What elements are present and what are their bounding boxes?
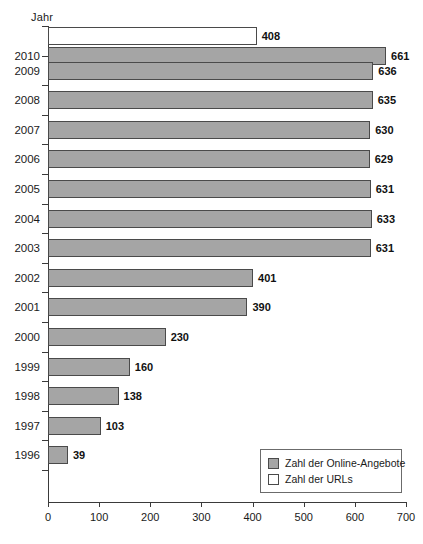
y-tick-1998	[42, 381, 49, 382]
bar-value-online-2007: 630	[375, 124, 393, 136]
bar-online-1998	[48, 387, 119, 405]
bar-value-online-2009: 636	[378, 65, 396, 77]
y-tick-2006	[42, 144, 49, 145]
x-tick-500	[304, 502, 305, 507]
bar-value-online-1997: 103	[106, 420, 124, 432]
year-label-1999: 1999	[14, 361, 40, 373]
year-label-2001: 2001	[14, 301, 40, 313]
y-tick-2003	[42, 233, 49, 234]
year-label-2003: 2003	[14, 242, 40, 254]
bar-online-2003	[48, 239, 371, 257]
bar-value-online-2001: 390	[252, 301, 270, 313]
bar-value-urls-2010: 408	[262, 30, 280, 42]
y-tick-1997	[42, 411, 49, 412]
bar-value-online-2002: 401	[258, 272, 276, 284]
year-label-1998: 1998	[14, 390, 40, 402]
x-tick-400	[253, 502, 254, 507]
year-label-2009: 2009	[14, 65, 40, 77]
x-tick-label-500: 500	[295, 511, 313, 523]
bar-online-2005	[48, 180, 371, 198]
legend-label-urls: Zahl der URLs	[285, 473, 353, 485]
bar-online-1996	[48, 446, 68, 464]
legend-item-urls: Zahl der URLs	[268, 472, 394, 486]
bar-online-1999	[48, 358, 130, 376]
x-tick-label-0: 0	[45, 511, 51, 523]
legend-label-online: Zahl der Online-Angebote	[285, 457, 405, 469]
year-label-2006: 2006	[14, 153, 40, 165]
bar-value-online-1996: 39	[73, 449, 85, 461]
x-tick-700	[406, 502, 407, 507]
bar-value-online-2003: 631	[376, 242, 394, 254]
bar-value-online-2006: 629	[375, 153, 393, 165]
year-label-2007: 2007	[14, 124, 40, 136]
y-tick-1996	[42, 440, 49, 441]
y-tick-2008	[42, 85, 49, 86]
bar-value-online-2000: 230	[171, 331, 189, 343]
x-tick-label-600: 600	[346, 511, 364, 523]
y-tick-end	[42, 470, 49, 471]
x-tick-100	[99, 502, 100, 507]
y-tick-2001	[42, 292, 49, 293]
x-tick-0	[48, 502, 49, 507]
year-label-2000: 2000	[14, 331, 40, 343]
x-tick-200	[150, 502, 151, 507]
bar-value-online-2008: 635	[378, 94, 396, 106]
y-tick-2007	[42, 115, 49, 116]
bar-online-2000	[48, 328, 166, 346]
x-tick-label-300: 300	[192, 511, 210, 523]
bar-online-2004	[48, 210, 372, 228]
bar-value-online-2005: 631	[376, 183, 394, 195]
year-label-2008: 2008	[14, 94, 40, 106]
bar-online-2007	[48, 121, 370, 139]
year-label-1997: 1997	[14, 420, 40, 432]
year-label-2004: 2004	[14, 213, 40, 225]
bar-value-online-1998: 138	[124, 390, 142, 402]
bar-online-2008	[48, 91, 373, 109]
y-tick-2002	[42, 263, 49, 264]
legend-swatch-online-icon	[268, 458, 279, 469]
bar-online-2001	[48, 298, 247, 316]
x-axis-line	[48, 502, 406, 503]
x-tick-label-200: 200	[141, 511, 159, 523]
legend-item-online: Zahl der Online-Angebote	[268, 456, 394, 470]
legend-swatch-urls-icon	[268, 474, 279, 485]
bar-online-2002	[48, 269, 253, 287]
year-label-1996: 1996	[14, 449, 40, 461]
bar-value-online-1999: 160	[135, 361, 153, 373]
year-label-2005: 2005	[14, 183, 40, 195]
year-label-2010: 2010	[14, 50, 40, 62]
bar-online-2006	[48, 150, 370, 168]
bar-chart: Jahr 0100200300400500600700 201020092008…	[0, 0, 423, 544]
bar-value-online-2004: 633	[377, 213, 395, 225]
x-tick-label-700: 700	[397, 511, 415, 523]
x-tick-label-400: 400	[243, 511, 261, 523]
bar-online-1997	[48, 417, 101, 435]
bar-urls-2010	[48, 27, 257, 45]
y-tick-2004	[42, 204, 49, 205]
year-label-2002: 2002	[14, 272, 40, 284]
y-tick-1999	[42, 352, 49, 353]
bar-online-2009	[48, 62, 373, 80]
bar-value-online-2010: 661	[391, 50, 409, 62]
x-tick-600	[355, 502, 356, 507]
y-tick-2000	[42, 322, 49, 323]
x-tick-label-100: 100	[90, 511, 108, 523]
x-tick-300	[201, 502, 202, 507]
legend: Zahl der Online-AngeboteZahl der URLs	[260, 449, 402, 493]
y-axis-title: Jahr	[31, 11, 53, 23]
y-tick-2005	[42, 174, 49, 175]
